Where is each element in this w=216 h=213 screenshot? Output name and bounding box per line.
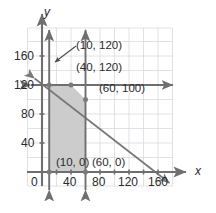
x-tick-label-80: 80 xyxy=(92,176,105,188)
x-tick-label-160: 160 xyxy=(148,176,168,188)
y-tick-label-40: 40 xyxy=(21,137,34,149)
y-tick-label-80: 80 xyxy=(21,108,34,120)
point-label-10-0: (10, 0) xyxy=(56,157,89,169)
y-tick-label-160: 160 xyxy=(14,50,34,62)
y-axis-label: y xyxy=(44,6,50,18)
point-label-60-0: (60, 0) xyxy=(92,157,125,169)
vertex-point-10-120 xyxy=(47,83,52,88)
point-label-10-120: (10, 120) xyxy=(76,40,122,52)
vertex-point-10-0 xyxy=(47,170,52,175)
vertex-point-60-100 xyxy=(83,97,88,102)
x-tick-label-40: 40 xyxy=(63,176,76,188)
x-tick-label-0: 0 xyxy=(31,176,38,188)
vertex-point-60-0 xyxy=(83,170,88,175)
point-label-60-100: (60, 100) xyxy=(99,83,145,95)
x-axis-label: x xyxy=(195,165,201,177)
point-label-40-120: (40, 120) xyxy=(76,62,122,74)
y-tick-label-120: 120 xyxy=(14,79,34,91)
x-tick-label-120: 120 xyxy=(118,176,138,188)
vertex-point-40-120 xyxy=(69,83,74,88)
graph-figure: 160 120 80 40 0 40 80 120 160 y x (10, 1… xyxy=(0,0,216,213)
